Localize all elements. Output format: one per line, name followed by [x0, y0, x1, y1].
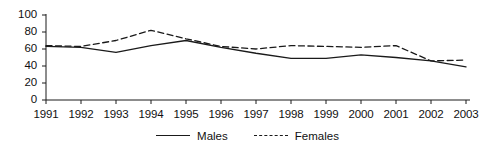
legend-swatch-dashed — [254, 135, 288, 138]
x-axis-tick-label: 1998 — [271, 109, 311, 121]
legend-label: Males — [197, 130, 228, 142]
x-axis-tick-label: 1992 — [61, 109, 101, 121]
x-axis-tick-label: 1991 — [26, 109, 66, 121]
y-axis-tick-label: 60 — [11, 43, 37, 55]
x-axis-tick-label: 1995 — [166, 109, 206, 121]
x-axis-tick-label: 2000 — [341, 109, 381, 121]
x-axis-tick-label: 1993 — [96, 109, 136, 121]
x-axis-tick-label: 1994 — [131, 109, 171, 121]
x-axis-tick-label: 1996 — [201, 109, 241, 121]
y-axis-tick-label: 100 — [11, 9, 37, 21]
x-axis-tick-label: 1999 — [306, 109, 346, 121]
chart-series — [46, 30, 466, 67]
series-line-males — [46, 41, 466, 67]
chart-legend: MalesFemales — [0, 126, 495, 146]
y-axis-tick-label: 80 — [11, 26, 37, 38]
x-axis-tick-label: 2003 — [446, 109, 486, 121]
y-axis-tick-label: 40 — [11, 60, 37, 72]
legend-entry-males: Males — [156, 130, 228, 142]
x-axis-tick-label: 2002 — [411, 109, 451, 121]
x-axis-tick-label: 2001 — [376, 109, 416, 121]
y-axis-tick-label: 20 — [11, 77, 37, 89]
x-axis-tick-label: 1997 — [236, 109, 276, 121]
legend-entry-females: Females — [254, 130, 339, 142]
chart-plot-area — [0, 0, 495, 146]
line-chart: 020406080100 199119921993199419951996199… — [0, 0, 495, 146]
legend-label: Females — [295, 130, 339, 142]
legend-swatch-solid — [156, 135, 190, 138]
series-line-females — [46, 30, 466, 61]
y-axis-tick-label: 0 — [11, 94, 37, 106]
